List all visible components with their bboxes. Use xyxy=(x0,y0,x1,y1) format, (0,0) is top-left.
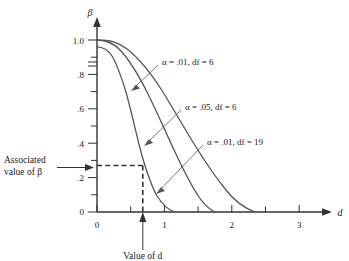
axes-group xyxy=(93,17,332,216)
leader-line-2 xyxy=(148,110,181,142)
y-tick-label-0.4: .4 xyxy=(77,139,84,149)
y-tick-label-0: 0 xyxy=(80,207,85,217)
assoc-beta-arrowhead xyxy=(85,164,94,171)
x-axis-title: d xyxy=(338,207,344,218)
x-tick-label-2: 2 xyxy=(230,220,235,230)
x-tick-label-1: 1 xyxy=(162,220,167,230)
x-ticks-group xyxy=(97,205,299,212)
x-tick-label-3: 3 xyxy=(297,220,302,230)
series-label-2: α = .05, df = 6 xyxy=(185,102,237,112)
leader-arrowhead-2 xyxy=(144,139,153,146)
beta-value-indicator xyxy=(97,166,143,213)
y-tick-label-0.6: .6 xyxy=(77,104,84,114)
y-axis-title: β xyxy=(87,7,93,18)
series-label-1: α = .01, df = 6 xyxy=(162,57,214,67)
value-of-d-arrowhead xyxy=(139,212,146,222)
assoc-beta-label-line1: Associated xyxy=(4,155,46,165)
y-tick-label-0.2: .2 xyxy=(77,173,84,183)
assoc-beta-label-line2: value of β xyxy=(4,167,42,177)
y-tick-label-0.8: .8 xyxy=(77,70,84,80)
annotation-value-of-d: Value of d xyxy=(123,212,162,261)
chart-svg: 0 .2 .4 .6 .8 1.0 0 1 2 3 β d α = .01, d… xyxy=(0,0,349,261)
leader-line-3 xyxy=(160,145,203,190)
beta-power-curve-chart: 0 .2 .4 .6 .8 1.0 0 1 2 3 β d α = .01, d… xyxy=(0,0,349,261)
y-tick-label-1.0: 1.0 xyxy=(73,36,85,46)
value-of-d-label: Value of d xyxy=(123,251,162,261)
series-label-3: α = .01, df = 19 xyxy=(207,137,264,147)
y-axis-arrowhead xyxy=(93,17,101,27)
x-tick-label-0: 0 xyxy=(95,220,100,230)
y-ticks-group xyxy=(88,40,97,212)
leader-arrowhead-3 xyxy=(156,187,165,194)
leader-arrowhead-1 xyxy=(131,85,140,92)
x-axis-arrowhead xyxy=(322,208,332,216)
